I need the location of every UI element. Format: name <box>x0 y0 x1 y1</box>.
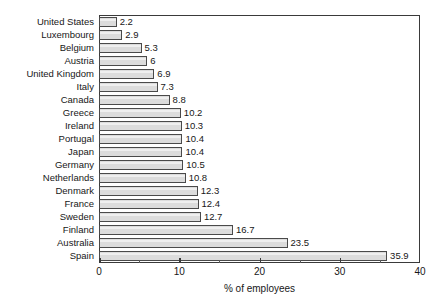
category-label: United States <box>0 17 94 27</box>
x-tick-major <box>419 258 421 263</box>
category-label: Ireland <box>0 121 94 131</box>
category-label: Canada <box>0 95 94 105</box>
x-axis-ticks <box>99 15 420 263</box>
x-tick-major <box>260 258 262 263</box>
x-tick-label: 40 <box>414 266 425 278</box>
category-label: Sweden <box>0 212 94 222</box>
category-label: Belgium <box>0 43 94 53</box>
bar-chart: United StatesLuxembourgBelgiumAustriaUni… <box>0 0 441 307</box>
category-label: Greece <box>0 108 94 118</box>
x-tick-major <box>179 258 181 263</box>
category-label: Portugal <box>0 134 94 144</box>
x-tick-minor <box>219 260 220 263</box>
x-axis-tick-labels: 010203040 <box>99 266 420 280</box>
x-tick-label: 30 <box>334 266 345 278</box>
category-axis-labels: United StatesLuxembourgBelgiumAustriaUni… <box>0 15 94 263</box>
category-label: Germany <box>0 160 94 170</box>
category-label: Austria <box>0 56 94 66</box>
category-label: Australia <box>0 238 94 248</box>
x-tick-label: 10 <box>174 266 185 278</box>
category-label: Denmark <box>0 186 94 196</box>
category-label: Finland <box>0 225 94 235</box>
category-label: United Kingdom <box>0 69 94 79</box>
category-label: Luxembourg <box>0 30 94 40</box>
x-tick-minor <box>380 260 381 263</box>
x-tick-label: 0 <box>96 266 102 278</box>
x-tick-label: 20 <box>254 266 265 278</box>
category-label: Netherlands <box>0 173 94 183</box>
category-label: Italy <box>0 82 94 92</box>
x-tick-major <box>340 258 342 263</box>
x-tick-minor <box>139 260 140 263</box>
category-label: Japan <box>0 147 94 157</box>
x-tick-minor <box>300 260 301 263</box>
category-label: Spain <box>0 251 94 261</box>
x-axis-title: % of employees <box>99 283 420 294</box>
x-tick-major <box>99 258 101 263</box>
category-label: France <box>0 199 94 209</box>
